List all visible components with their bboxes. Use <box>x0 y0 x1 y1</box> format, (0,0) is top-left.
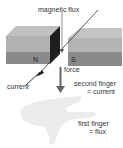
force-arrow-shaft <box>60 67 62 89</box>
south-magnet-front-upper <box>68 38 122 52</box>
force-label: force <box>64 66 80 74</box>
south-pole-label: S <box>71 56 76 64</box>
south-magnet-top <box>68 28 122 38</box>
north-magnet-front-upper <box>6 36 50 52</box>
force-arrowhead <box>56 86 65 93</box>
second-finger-meaning: = current <box>87 88 115 96</box>
first-finger-label: first finger <box>78 120 109 128</box>
first-finger-meaning: = flux <box>89 128 106 136</box>
current-arrowhead <box>36 70 44 77</box>
second-finger-label: second finger <box>74 80 116 88</box>
current-label: current <box>7 83 29 91</box>
magnetic-flux-label: magnetic flux <box>38 6 79 14</box>
north-pole-label: N <box>33 56 38 64</box>
